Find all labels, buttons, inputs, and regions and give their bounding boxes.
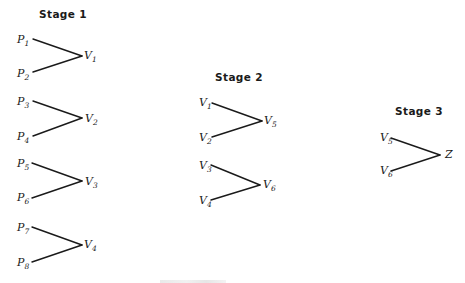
node-v4-output-stage-1: V4 (84, 239, 97, 253)
node-p4-stage-1: P4 (17, 131, 29, 145)
edge-v4-to-v6 (211, 185, 260, 200)
diagram-edges (0, 0, 465, 283)
node-p7-stage-1: P7 (17, 222, 29, 236)
edge-v6-to-z (391, 155, 440, 171)
node-p2-stage-1: P2 (17, 68, 29, 82)
node-v3-stage-2: V3 (199, 160, 212, 174)
edge-p7-to-v4 (32, 227, 82, 245)
stage-2-title: Stage 2 (215, 72, 263, 83)
edge-p8-to-v4 (32, 245, 82, 262)
edge-p4-to-v2 (33, 118, 82, 136)
edge-v5-to-z (391, 138, 440, 155)
stage-3-title: Stage 3 (395, 106, 443, 117)
node-v3-output-stage-1: V3 (85, 176, 98, 190)
edge-v2-to-v5 (212, 121, 262, 137)
node-p1-stage-1: P1 (17, 34, 29, 48)
node-v2-stage-2: V2 (199, 132, 212, 146)
node-v1-stage-2: V1 (199, 97, 212, 111)
edge-v1-to-v5 (212, 103, 262, 121)
stage-tournament-diagram: Stage 1 Stage 2 Stage 3 P1P2V1P3P4V2P5P6… (0, 0, 465, 283)
node-v4-stage-2: V4 (199, 195, 212, 209)
edge-p5-to-v3 (32, 163, 82, 181)
node-v6-output-stage-2: V6 (263, 179, 276, 193)
node-v1-output-stage-1: V1 (84, 50, 97, 64)
edge-p6-to-v3 (32, 181, 82, 198)
node-v5-output-stage-2: V5 (264, 115, 277, 129)
edge-p3-to-v2 (33, 101, 82, 118)
edge-v3-to-v6 (211, 165, 260, 185)
stage-1-title: Stage 1 (39, 9, 87, 20)
edge-p1-to-v1 (33, 39, 82, 56)
node-v5-stage-3: V5 (380, 132, 393, 146)
node-z-output-stage-3: Z (445, 149, 453, 160)
node-v2-output-stage-1: V2 (85, 113, 98, 127)
node-p3-stage-1: P3 (17, 96, 29, 110)
node-p8-stage-1: P8 (17, 257, 29, 271)
node-p5-stage-1: P5 (17, 158, 29, 172)
node-p6-stage-1: P6 (17, 192, 29, 206)
edge-p2-to-v1 (33, 56, 82, 72)
node-v6-stage-3: V6 (380, 165, 393, 179)
